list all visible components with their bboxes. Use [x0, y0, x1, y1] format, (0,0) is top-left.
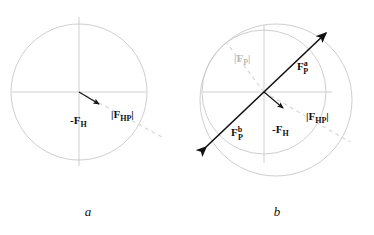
panel-b-fp-b-label: FbP: [231, 125, 243, 142]
panel-b-fp-double-arrow: [206, 33, 326, 147]
panel-a-fhp-magnitude-label: |FHP|: [111, 108, 134, 123]
panel-b-fp-a-label: FaP: [297, 59, 308, 76]
panel-b-caption: b: [274, 204, 281, 219]
figure-canvas: -FH |FHP| a |FP| FaP: [0, 0, 374, 235]
panel-b-fp-dashed-line: [226, 42, 264, 92]
panel-b-fhp-magnitude-label: |FHP|: [306, 110, 329, 125]
panel-b-fp-magnitude-label: |FP|: [234, 52, 250, 67]
panel-a: -FH |FHP| a: [11, 17, 162, 219]
figure-root: -FH |FHP| a |FP| FaP: [0, 0, 374, 235]
panel-b-minus-fh-vector: [264, 92, 283, 108]
panel-a-caption: a: [85, 204, 92, 219]
panel-a-minus-fh-vector: [79, 92, 99, 104]
panel-b: |FP| FaP FbP -FH |FHP| b: [200, 24, 352, 219]
panel-b-minus-fh-label: -FH: [272, 123, 289, 138]
